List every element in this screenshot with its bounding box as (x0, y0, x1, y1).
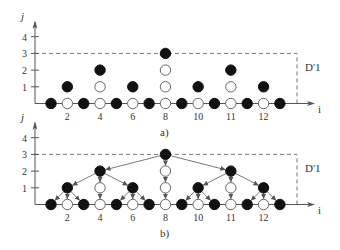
filled-node (79, 98, 89, 108)
open-node (128, 199, 138, 209)
filled-node (46, 98, 56, 108)
dependence-arrow (186, 192, 195, 201)
open-node (160, 183, 170, 193)
filled-node (193, 82, 203, 92)
open-node (226, 98, 236, 108)
region-label: D'1 (305, 61, 320, 73)
dependence-arrow (202, 192, 211, 201)
x-tick-label: 10 (193, 111, 203, 122)
filled-node (275, 98, 285, 108)
filled-node (128, 82, 138, 92)
open-node (160, 65, 170, 75)
open-node (258, 199, 268, 209)
y-axis-label: j (19, 111, 24, 123)
x-tick-label: 8 (163, 212, 168, 223)
y-tick-label: 2 (22, 65, 27, 76)
open-node (128, 98, 138, 108)
region-label: D'1 (305, 162, 320, 174)
filled-node (111, 98, 121, 108)
y-tick-label: 4 (22, 133, 27, 144)
filled-node (79, 199, 89, 209)
panel-caption: a) (160, 126, 169, 139)
region-boundary (35, 154, 297, 204)
edges (55, 156, 276, 201)
dependence-arrow (235, 173, 258, 185)
filled-node (275, 199, 285, 209)
open-node (226, 199, 236, 209)
open-node (193, 199, 203, 209)
filled-node (242, 98, 252, 108)
filled-node (209, 98, 219, 108)
dependence-arrow (267, 192, 276, 201)
filled-node (62, 82, 72, 92)
axes (31, 123, 314, 205)
dependence-arrow (136, 192, 145, 201)
filled-node (95, 65, 105, 75)
open-node (160, 82, 170, 92)
open-node (160, 199, 170, 209)
filled-node (258, 82, 268, 92)
filled-node (46, 199, 56, 209)
filled-node (111, 199, 121, 209)
filled-node (160, 149, 170, 159)
filled-node (177, 98, 187, 108)
x-tick-label: 4 (98, 111, 103, 122)
open-node (62, 199, 72, 209)
x-tick-label: 11 (226, 111, 236, 122)
dependence-arrow (251, 192, 260, 201)
dependence-arrow (170, 156, 225, 170)
open-node (160, 166, 170, 176)
region-boundary (35, 53, 297, 103)
region-box (35, 53, 297, 103)
x-axis-label: i (318, 103, 321, 115)
open-node (95, 199, 105, 209)
panel-caption: b) (160, 227, 170, 240)
filled-node (128, 183, 138, 193)
dependence-arrow (120, 192, 129, 201)
dependence-arrow (106, 156, 161, 170)
open-node (226, 183, 236, 193)
x-tick-label: 4 (98, 212, 103, 223)
filled-node (177, 199, 187, 209)
y-tick-label: 3 (22, 48, 27, 59)
y-axis-label: j (19, 10, 24, 22)
labels: j i D'1 a) 12342468101112 (19, 10, 321, 139)
open-node (193, 98, 203, 108)
filled-node (144, 98, 154, 108)
panel-a: j i D'1 a) 12342468101112 (19, 10, 321, 139)
dependence-diagram: j i D'1 a) 12342468101112 j i D'1 b) 123… (0, 0, 340, 250)
filled-node (242, 199, 252, 209)
x-axis-label: i (318, 204, 321, 216)
filled-node (62, 183, 72, 193)
x-tick-label: 8 (163, 111, 168, 122)
filled-node (144, 199, 154, 209)
x-tick-label: 2 (65, 111, 70, 122)
open-node (95, 98, 105, 108)
y-tick-label: 4 (22, 32, 27, 43)
x-tick-label: 12 (259, 212, 269, 223)
y-tick-label: 1 (22, 183, 27, 194)
panel-b: j i D'1 b) 12342468101112 (19, 111, 321, 240)
x-tick-label: 6 (130, 212, 135, 223)
region-box (35, 154, 297, 204)
filled-node (226, 65, 236, 75)
open-node (226, 82, 236, 92)
x-tick-label: 11 (226, 212, 236, 223)
axes (31, 22, 314, 104)
filled-node (258, 183, 268, 193)
x-tick-label: 12 (259, 111, 269, 122)
open-node (95, 183, 105, 193)
x-tick-label: 2 (65, 212, 70, 223)
dependence-arrow (72, 173, 95, 185)
nodes (46, 48, 285, 109)
dependence-arrow (105, 173, 128, 185)
filled-node (160, 48, 170, 58)
labels: j i D'1 b) 12342468101112 (19, 111, 321, 240)
filled-node (193, 183, 203, 193)
open-node (62, 98, 72, 108)
dependence-arrow (55, 192, 64, 201)
filled-node (209, 199, 219, 209)
filled-node (226, 166, 236, 176)
x-tick-label: 6 (130, 111, 135, 122)
y-tick-label: 2 (22, 166, 27, 177)
